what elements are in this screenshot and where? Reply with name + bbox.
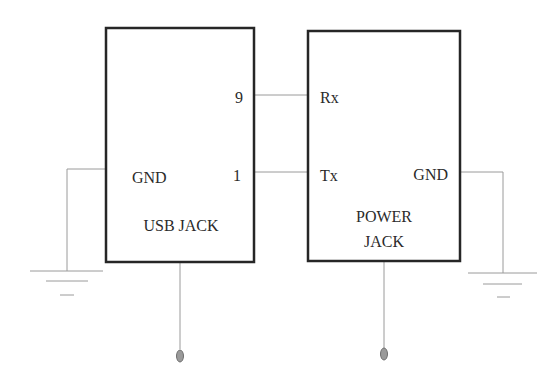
ground-icon-right [468,273,537,297]
usb-jack-component: 9 1 GND USB JACK [106,28,254,262]
ground-icon-left [30,271,103,295]
power-rx-label: Rx [320,89,339,106]
power-jack-box [308,31,460,261]
power-jack-title-line2: JACK [364,233,404,250]
wire-usb-gnd [67,169,105,271]
usb-gnd-label: GND [132,169,167,186]
power-jack-title-line1: POWER [356,208,412,225]
terminal-icon-usb [177,350,184,362]
wire-power-gnd [461,172,503,273]
power-tx-label: Tx [320,167,338,184]
power-jack-component: Rx Tx GND POWER JACK [308,31,460,261]
power-gnd-label: GND [413,166,448,183]
schematic-diagram: 9 1 GND USB JACK Rx Tx GND POWER JACK [0,0,560,388]
terminal-icon-power [381,348,388,360]
usb-jack-title: USB JACK [143,217,219,234]
usb-pin-9-label: 9 [235,89,243,106]
usb-pin-1-label: 1 [233,167,241,184]
